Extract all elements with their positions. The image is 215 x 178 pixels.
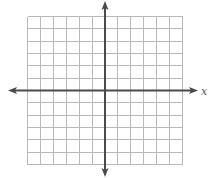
coordinate-plane: x <box>0 0 215 178</box>
x-axis-label: x <box>201 85 208 98</box>
